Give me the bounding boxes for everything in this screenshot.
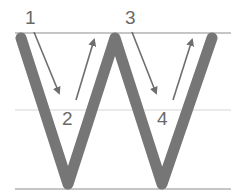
stroke-1-label: 1 (25, 8, 36, 27)
stroke-2-arrow (76, 40, 94, 100)
stroke-order-diagram: 1 2 3 4 (0, 0, 231, 196)
letter-w-stroke (21, 38, 212, 184)
stroke-4-label: 4 (157, 109, 168, 128)
stroke-3-label: 3 (125, 8, 136, 27)
diagram-svg (0, 0, 231, 196)
stroke-3-arrow (132, 32, 156, 93)
stroke-2-label: 2 (62, 109, 73, 128)
